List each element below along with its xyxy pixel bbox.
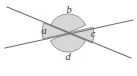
angle-diagram-canvas: a b c d [0,0,137,76]
angle-label-c: c [91,28,96,39]
angle-label-b: b [66,4,71,15]
angle-label-a: a [41,25,46,36]
angle-diagram-figure: a b c d [0,0,137,76]
angle-label-d: d [65,51,71,62]
angle-sectors-group [42,14,94,52]
